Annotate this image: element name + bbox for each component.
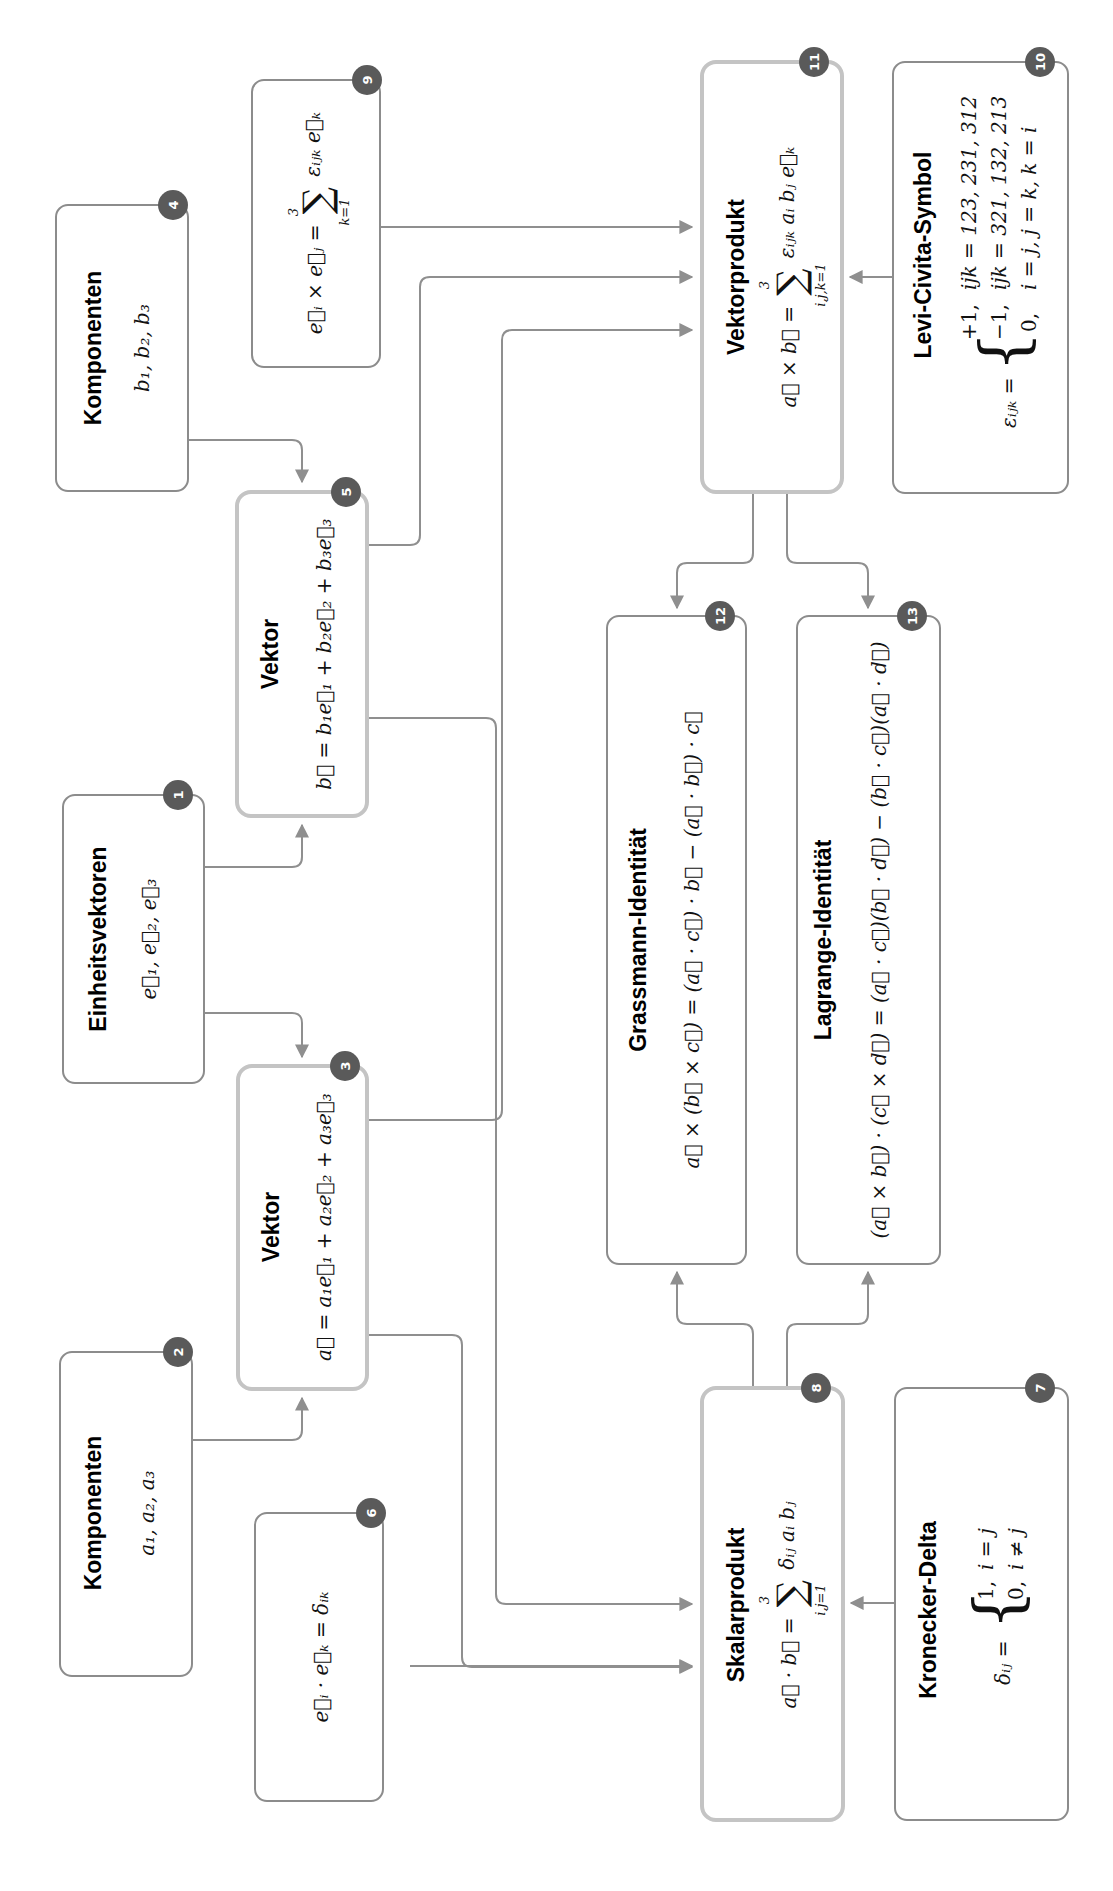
node-5-title: Vektor — [257, 619, 283, 689]
node-5-formula: b⃗ = b₁e⃗₁ + b₂e⃗₂ + b₃e⃗₃ — [312, 518, 336, 789]
svg-text:11: 11 — [807, 53, 822, 71]
node-13-formula: (a⃗ × b⃗) · (c⃗ × d⃗) = (a⃗ · c⃗)(b⃗ · d… — [867, 641, 891, 1238]
sum-lower-limit: i,j=1 — [813, 1584, 828, 1615]
concept-diagram: e⃗ᵢ × e⃗ⱼ = ∑ εᵢⱼₖ e⃗ₖ 3 k=1 9 Komponent… — [0, 0, 1113, 1891]
node-8-scalar-product[interactable]: Skalarprodukt a⃗ · b⃗ = ∑ δᵢⱼ aᵢ bⱼ 3 i,… — [702, 1373, 843, 1820]
edge-8-to-12 — [677, 1272, 753, 1387]
badge-7: 7 — [1025, 1373, 1055, 1403]
svg-text:8: 8 — [809, 1383, 824, 1392]
badge-11: 11 — [799, 47, 829, 77]
sum-lower-limit: i,j,k=1 — [813, 263, 828, 307]
node-5-vector-b[interactable]: Vektor b⃗ = b₁e⃗₁ + b₂e⃗₂ + b₃e⃗₃ 5 — [237, 477, 367, 816]
node-7-kronecker-delta[interactable]: Kronecker-Delta δᵢⱼ = { 1, i = j 0, i ≠ … — [895, 1373, 1068, 1820]
sum-upper-limit: 3 — [286, 208, 301, 216]
badge-4: 4 — [158, 190, 188, 220]
case-condition: ijk = 321, 132, 213 — [987, 96, 1011, 290]
svg-text:4: 4 — [166, 200, 181, 209]
case-condition: i = j, j = k, k = i — [1017, 127, 1041, 290]
node-13-title: Lagrange-Identität — [810, 839, 836, 1040]
node-1-formula: e⃗₁, e⃗₂, e⃗₃ — [137, 879, 161, 1000]
node-4-components-b[interactable]: Komponenten b₁, b₂, b₃ 4 — [56, 190, 188, 491]
node-3-vector-a[interactable]: Vektor a⃗ = a₁e⃗₁ + a₂e⃗₂ + a₃e⃗₃ 3 — [238, 1051, 367, 1389]
svg-text:5: 5 — [339, 487, 354, 496]
badge-5: 5 — [331, 477, 361, 507]
node-4-title: Komponenten — [80, 271, 106, 426]
svg-text:12: 12 — [713, 607, 728, 625]
svg-text:2: 2 — [171, 1347, 186, 1356]
badge-8: 8 — [801, 1373, 831, 1403]
node-9-cross-product-unit-vectors[interactable]: e⃗ᵢ × e⃗ⱼ = ∑ εᵢⱼₖ e⃗ₖ 3 k=1 9 — [252, 65, 382, 367]
edge-8-to-13 — [787, 1272, 868, 1387]
edge-5-to-11 — [367, 277, 692, 545]
node-4-formula: b₁, b₂, b₃ — [130, 304, 154, 392]
node-2-components-a[interactable]: Komponenten a₁, a₂, a₃ 2 — [60, 1337, 193, 1676]
badge-10: 10 — [1025, 47, 1055, 77]
node-10-title: Levi-Civita-Symbol — [910, 151, 936, 358]
sum-lower-limit: k=1 — [337, 198, 352, 225]
badge-12: 12 — [705, 601, 735, 631]
node-7-lhs: δᵢⱼ = — [991, 1641, 1015, 1685]
svg-text:13: 13 — [905, 607, 920, 625]
svg-text:1: 1 — [171, 790, 186, 799]
node-12-formula: a⃗ × (b⃗ × c⃗) = (a⃗ · c⃗) · b⃗ − (a⃗ · … — [680, 712, 704, 1169]
case-condition: i ≠ j — [1004, 1528, 1028, 1570]
node-11-title: Vektorprodukt — [723, 199, 749, 355]
node-1-title: Einheitsvektoren — [85, 846, 111, 1031]
node-3-formula: a⃗ = a₁e⃗₁ + a₂e⃗₂ + a₃e⃗₃ — [312, 1093, 336, 1361]
node-2-title: Komponenten — [80, 1436, 106, 1591]
badge-9: 9 — [352, 65, 382, 95]
case-value: 0, — [1017, 313, 1041, 332]
node-8-title: Skalarprodukt — [723, 1527, 749, 1682]
edge-1-to-3 — [204, 1013, 302, 1057]
node-12-title: Grassmann-Identität — [625, 828, 651, 1052]
node-6-unit-dot-product[interactable]: e⃗ᵢ · e⃗ₖ = δᵢₖ 6 — [255, 1498, 386, 1801]
svg-text:10: 10 — [1033, 53, 1048, 71]
svg-text:7: 7 — [1033, 1383, 1048, 1392]
badge-2: 2 — [163, 1337, 193, 1367]
case-condition: ijk = 123, 231, 312 — [957, 96, 981, 290]
node-7-title: Kronecker-Delta — [915, 1521, 941, 1699]
edge-3-to-8 — [367, 1335, 692, 1667]
node-6-formula: e⃗ᵢ · e⃗ₖ = δᵢₖ — [309, 1592, 333, 1723]
case-value: 0, — [1004, 1581, 1028, 1600]
badge-6: 6 — [356, 1498, 386, 1528]
node-11-vector-product[interactable]: Vektorprodukt a⃗ × b⃗ = ∑ εᵢⱼₖ aᵢ bⱼ e⃗ₖ… — [702, 47, 842, 492]
case-value: −1, — [987, 304, 1011, 340]
case-value: +1, — [957, 304, 981, 340]
node-1-unit-vectors[interactable]: Einheitsvektoren e⃗₁, e⃗₂, e⃗₃ 1 — [63, 780, 204, 1083]
svg-text:9: 9 — [360, 75, 375, 84]
node-13-lagrange-identity[interactable]: Lagrange-Identität (a⃗ × b⃗) · (c⃗ × d⃗)… — [797, 601, 940, 1264]
edge-11-to-13 — [787, 493, 868, 608]
case-value: 1, — [974, 1581, 998, 1600]
svg-text:6: 6 — [364, 1508, 379, 1517]
node-10-lhs: εᵢⱼₖ = — [997, 378, 1021, 428]
badge-3: 3 — [330, 1051, 360, 1081]
svg-text:3: 3 — [338, 1061, 353, 1070]
sum-upper-limit: 3 — [757, 281, 772, 289]
edge-2-to-3 — [192, 1398, 302, 1440]
node-12-grassmann-identity[interactable]: Grassmann-Identität a⃗ × (b⃗ × c⃗) = (a⃗… — [607, 601, 746, 1264]
edge-1-to-5 — [204, 825, 302, 867]
case-condition: i = j — [974, 1528, 998, 1570]
node-10-levi-civita[interactable]: Levi-Civita-Symbol εᵢⱼₖ = { +1, ijk = 12… — [893, 47, 1068, 493]
node-3-title: Vektor — [258, 1192, 284, 1262]
edge-4-to-5 — [188, 440, 302, 482]
sum-upper-limit: 3 — [757, 1596, 772, 1604]
badge-1: 1 — [163, 780, 193, 810]
node-2-formula: a₁, a₂, a₃ — [135, 1470, 159, 1555]
badge-13: 13 — [897, 601, 927, 631]
edge-11-to-12 — [677, 493, 753, 608]
